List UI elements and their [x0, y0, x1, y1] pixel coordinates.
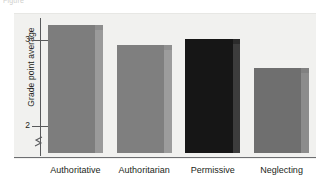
x-axis-category-label: Permissive: [179, 163, 248, 179]
bar-top-face: [301, 68, 309, 73]
y-axis-label: Grade point average: [26, 2, 36, 132]
bar-slot: [48, 14, 103, 156]
y-axis-tick-label: 3: [25, 34, 32, 44]
bar-slot: [185, 14, 240, 156]
bar-front-face: [254, 68, 301, 153]
bar-side-face: [95, 30, 103, 154]
x-axis-category-label: Neglecting: [247, 163, 316, 179]
x-axis-line: [14, 157, 316, 158]
bar-front-face: [48, 25, 95, 154]
bar[interactable]: [48, 25, 103, 154]
bar-side-face: [164, 50, 172, 153]
bar-side-face: [301, 73, 309, 153]
bar-front-face: [185, 39, 232, 153]
clipped-caption-text: Figure: [3, 0, 123, 5]
bar-side-face: [233, 44, 241, 153]
plot-panel: Grade point average 23: [14, 13, 316, 159]
y-axis-tick-label: 2: [25, 120, 32, 130]
bar-chart-figure: Figure Grade point average 23 Authoritat…: [0, 0, 316, 191]
bar[interactable]: [117, 45, 172, 153]
bar[interactable]: [185, 39, 240, 153]
bar-top-face: [164, 45, 172, 50]
bars-group: [41, 14, 316, 156]
bar[interactable]: [254, 68, 309, 153]
x-axis-category-label: Authoritarian: [110, 163, 179, 179]
bar-top-face: [95, 25, 103, 30]
x-axis-category-label: Authoritative: [41, 163, 110, 179]
bar-slot: [117, 14, 172, 156]
bar-slot: [254, 14, 309, 156]
bar-front-face: [117, 45, 164, 153]
x-axis-tick-labels: AuthoritativeAuthoritarianPermissiveNegl…: [41, 163, 316, 179]
bar-top-face: [233, 39, 241, 44]
